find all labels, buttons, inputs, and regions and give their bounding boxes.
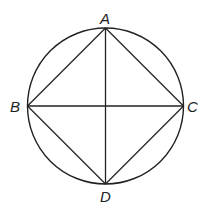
geometry-diagram: A B C D [0, 0, 208, 210]
label-b: B [10, 98, 20, 115]
segment-cd [106, 106, 184, 184]
segment-bd [28, 106, 106, 184]
label-c: C [187, 98, 198, 115]
segment-ac [106, 28, 184, 106]
segment-ab [28, 28, 106, 106]
label-d: D [100, 188, 111, 205]
label-a: A [99, 10, 110, 27]
